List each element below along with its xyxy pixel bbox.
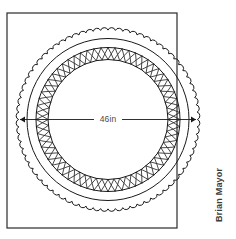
technical-drawing-canvas: 46in Brian Mayor: [0, 0, 236, 239]
drawing-svg: 46in Brian Mayor: [0, 0, 236, 239]
author-credit: Brian Mayor: [214, 167, 224, 222]
dimension-label: 46in: [100, 114, 117, 124]
